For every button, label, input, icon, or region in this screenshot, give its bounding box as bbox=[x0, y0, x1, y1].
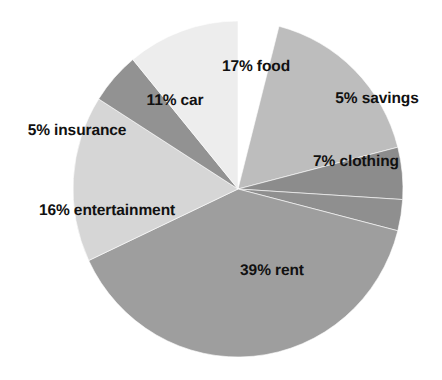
pie-label-insurance: 5% insurance bbox=[28, 123, 127, 139]
pie-label-savings: 5% savings bbox=[335, 91, 418, 107]
pie-label-clothing: 7% clothing bbox=[313, 154, 399, 170]
pie-label-car: 11% car bbox=[146, 93, 203, 109]
pie-chart: 17% food5% savings7% clothing39% rent16%… bbox=[0, 0, 442, 380]
pie-label-entertainment: 16% entertainment bbox=[39, 203, 175, 219]
pie-label-food: 17% food bbox=[222, 59, 290, 75]
pie-label-rent: 39% rent bbox=[240, 263, 304, 279]
pie-chart-canvas bbox=[0, 0, 442, 380]
